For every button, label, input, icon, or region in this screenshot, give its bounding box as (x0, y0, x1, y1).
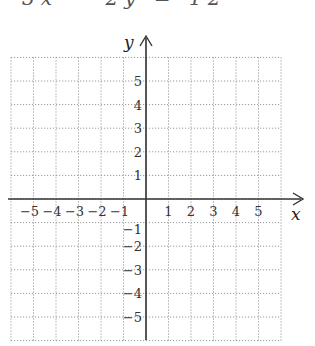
x-tick-label: −5 (20, 204, 39, 219)
y-tick-label: 2 (134, 145, 142, 160)
x-tick-label: 5 (254, 204, 262, 219)
y-tick-label: 3 (134, 121, 142, 136)
y-axis-label: y (123, 32, 134, 52)
x-tick-label: 2 (187, 204, 195, 219)
x-tick-label: 4 (232, 204, 240, 219)
y-tick-label: −5 (123, 310, 142, 325)
x-tick-label: 1 (164, 204, 172, 219)
y-tick-label: −3 (123, 263, 142, 278)
y-tick-label: 5 (134, 74, 142, 89)
x-tick-label: −1 (110, 204, 129, 219)
y-tick-label: −1 (123, 222, 142, 237)
x-axis-label: x (291, 204, 301, 224)
x-tick-label: −4 (42, 204, 61, 219)
y-tick-label: 4 (134, 98, 142, 113)
x-tick-label: −3 (65, 204, 84, 219)
x-tick-labels: −5−4−3−2−112345 (20, 204, 263, 219)
y-tick-label: −2 (123, 239, 142, 254)
coordinate-plane: y x −5−4−3−2−112345 54321−1−2−3−4−5 (0, 0, 315, 346)
x-tick-label: −2 (87, 204, 106, 219)
y-tick-label: −4 (123, 286, 142, 301)
x-tick-label: 3 (209, 204, 217, 219)
y-tick-label: 1 (134, 168, 142, 183)
